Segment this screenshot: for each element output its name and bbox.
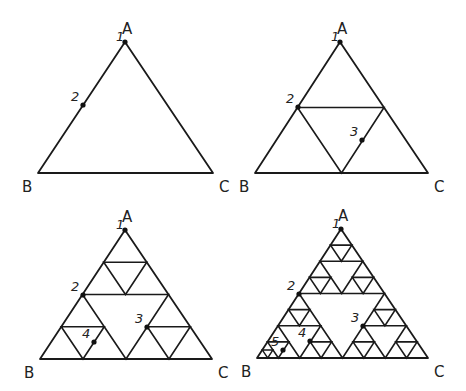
point-2-marker [295, 104, 300, 109]
vertex-label-b: B [241, 363, 251, 381]
vertex-label-c: C [219, 178, 229, 196]
point-4-marker [307, 338, 312, 343]
vertex-label-c: C [218, 364, 228, 382]
point-2-marker [80, 102, 85, 107]
point-3-marker [144, 324, 149, 329]
triangle-panel-3: ABC1234 [24, 208, 228, 382]
sierpinski-diagram: ABC12ABC123ABC1234ABC12345 [0, 0, 466, 391]
point-5-marker [280, 347, 285, 352]
vertex-label-c: C [434, 178, 444, 196]
point-1-label: 1 [331, 29, 339, 44]
vertex-label-b: B [22, 178, 32, 196]
vertex-label-c: C [434, 363, 444, 381]
point-3-label: 3 [351, 310, 359, 325]
vertex-label-b: B [239, 178, 249, 196]
point-1-label: 1 [116, 217, 124, 232]
point-3-label: 3 [135, 311, 143, 326]
point-2-marker [80, 292, 85, 297]
point-3-marker [360, 323, 365, 328]
triangle-panel-1: ABC12 [22, 20, 229, 196]
triangle-panel-2: ABC123 [239, 20, 444, 196]
point-1-label: 1 [116, 29, 124, 44]
point-2-label: 2 [71, 279, 79, 294]
point-4-marker [91, 339, 96, 344]
point-2-label: 2 [287, 278, 295, 293]
point-1-label: 1 [332, 216, 340, 231]
point-4-label: 4 [298, 325, 306, 340]
point-2-label: 2 [286, 91, 294, 106]
point-3-marker [359, 137, 364, 142]
point-2-label: 2 [71, 89, 79, 104]
triangle-panel-4: ABC12345 [241, 207, 444, 381]
outer-triangle [38, 42, 213, 173]
point-5-label: 5 [271, 334, 279, 349]
sierpinski-canvas: ABC12ABC123ABC1234ABC12345 [0, 0, 466, 391]
vertex-label-b: B [24, 364, 34, 382]
point-2-marker [296, 291, 301, 296]
point-4-label: 4 [82, 326, 90, 341]
point-3-label: 3 [350, 124, 358, 139]
